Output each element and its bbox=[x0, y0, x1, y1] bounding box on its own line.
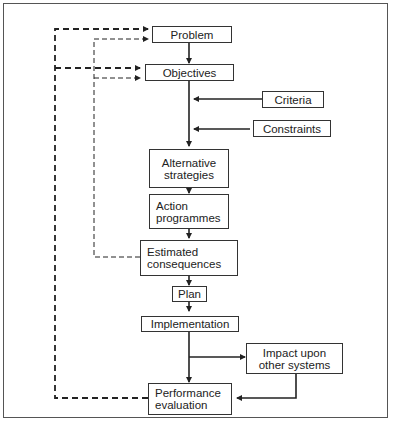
node-action-programmes: Action programmes bbox=[149, 194, 229, 229]
node-plan: Plan bbox=[172, 286, 207, 302]
node-performance-evaluation: Performance evaluation bbox=[148, 383, 232, 415]
node-constraints: Constraints bbox=[253, 120, 331, 137]
node-criteria: Criteria bbox=[262, 91, 324, 108]
node-impact-upon-other-systems: Impact upon other systems bbox=[246, 343, 343, 374]
node-estimated-consequences: Estimated consequences bbox=[140, 240, 238, 276]
node-implementation: Implementation bbox=[141, 316, 239, 332]
node-problem: Problem bbox=[152, 26, 232, 43]
node-objectives: Objectives bbox=[145, 64, 234, 81]
node-alternative-strategies: Alternative strategies bbox=[149, 149, 229, 188]
